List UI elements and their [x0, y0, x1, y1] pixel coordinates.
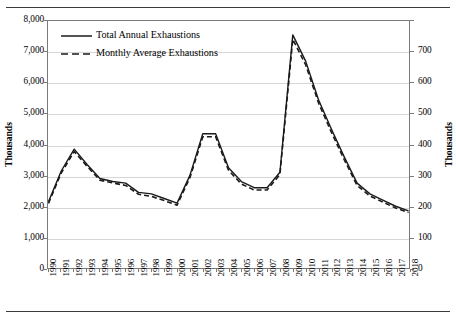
right-tickmark — [410, 82, 414, 83]
x-tick-label: 2003 — [216, 266, 227, 277]
legend-item: Monthly Average Exhaustions — [60, 46, 218, 61]
x-tick-label: 2009 — [293, 266, 304, 277]
x-tick-label: 1992 — [73, 266, 84, 277]
series-line — [48, 39, 408, 212]
x-tick-label: 2013 — [345, 266, 356, 277]
x-tick-label: 2000 — [177, 266, 188, 277]
x-tick-label: 1990 — [48, 266, 59, 277]
x-tick-label: 2014 — [358, 266, 369, 277]
x-tick-label: 2001 — [190, 266, 201, 277]
x-tick-label: 2010 — [306, 266, 317, 277]
right-tick-label: 400 — [418, 140, 456, 149]
left-tick-label: 4,000 — [4, 140, 44, 149]
plot-area: Total Annual Exhaustions Monthly Average… — [47, 20, 410, 269]
bottom-horizontal-rule — [6, 311, 450, 312]
x-tick-label: 1999 — [164, 266, 175, 277]
x-tick-label: 1998 — [151, 266, 162, 277]
x-tick-label: 1991 — [60, 266, 71, 277]
left-tick-label: 0 — [4, 264, 44, 273]
right-tick-label: 600 — [418, 77, 456, 86]
right-tick-label: 0 — [418, 264, 456, 273]
legend-dashed-line-icon — [60, 49, 93, 59]
top-horizontal-rule — [6, 7, 450, 8]
x-tick-label: 1997 — [138, 266, 149, 277]
right-tickmark — [410, 207, 414, 208]
legend-label-monthly-average: Monthly Average Exhaustions — [96, 48, 218, 58]
right-tick-label: 700 — [418, 46, 456, 55]
x-tick-label: 1993 — [86, 266, 97, 277]
left-tick-label: 3,000 — [4, 171, 44, 180]
right-tickmark — [410, 51, 414, 52]
left-tick-label: 5,000 — [4, 108, 44, 117]
x-tick-label: 2011 — [319, 266, 330, 277]
right-tickmark — [410, 145, 414, 146]
x-tick-label: 2007 — [267, 266, 278, 277]
x-tick-label: 2006 — [254, 266, 265, 277]
x-tick-label: 2002 — [203, 266, 214, 277]
x-tick-label: 2012 — [332, 266, 343, 277]
right-tick-label: 300 — [418, 171, 456, 180]
x-axis-labels: 1990199119921993199419951996199719981999… — [47, 271, 410, 307]
x-tick-label: 2015 — [371, 266, 382, 277]
left-tick-label: 2,000 — [4, 202, 44, 211]
right-tick-label: 100 — [418, 233, 456, 242]
right-tickmark — [410, 20, 414, 21]
x-tick-label: 1996 — [125, 266, 136, 277]
x-tick-label: 2016 — [384, 266, 395, 277]
x-tick-label: 1994 — [99, 266, 110, 277]
legend-label-total-annual: Total Annual Exhaustions — [96, 30, 200, 40]
right-tick-label: 200 — [418, 202, 456, 211]
x-tick-label: 2004 — [229, 266, 240, 277]
x-tick-label: 2018 — [410, 266, 421, 277]
chart-legend: Total Annual Exhaustions Monthly Average… — [60, 28, 218, 64]
chart-figure: Thousands Thousands 01,0002,0003,0004,00… — [0, 0, 456, 321]
x-tick-label: 1995 — [112, 266, 123, 277]
legend-solid-line-icon — [60, 31, 93, 41]
right-tickmark — [410, 176, 414, 177]
left-tickmark — [43, 269, 47, 270]
right-tickmark — [410, 113, 414, 114]
left-tick-label: 1,000 — [4, 233, 44, 242]
x-tick-label: 2008 — [280, 266, 291, 277]
x-tick-label: 2017 — [397, 266, 408, 277]
legend-item: Total Annual Exhaustions — [60, 28, 218, 43]
left-tick-label: 6,000 — [4, 77, 44, 86]
left-tick-label: 8,000 — [4, 15, 44, 24]
right-tick-label: 500 — [418, 108, 456, 117]
right-tickmark — [410, 238, 414, 239]
x-tick-label: 2005 — [241, 266, 252, 277]
left-tick-label: 7,000 — [4, 46, 44, 55]
